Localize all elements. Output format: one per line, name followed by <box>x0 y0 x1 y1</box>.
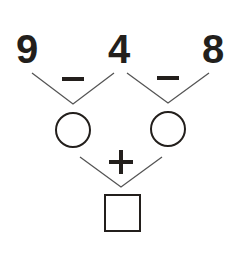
diagram-canvas: 9 4 8 <box>0 0 247 261</box>
answer-circle-right[interactable] <box>151 112 185 146</box>
number-8: 8 <box>202 27 224 71</box>
minus-sign-right <box>157 76 179 80</box>
answer-circle-left[interactable] <box>56 113 90 147</box>
minus-sign-left <box>62 77 84 81</box>
number-4: 4 <box>108 27 131 71</box>
number-9: 9 <box>16 27 38 71</box>
plus-sign-vertical <box>119 150 123 174</box>
answer-square[interactable] <box>105 195 140 231</box>
number-tree-diagram: 9 4 8 <box>0 0 247 261</box>
